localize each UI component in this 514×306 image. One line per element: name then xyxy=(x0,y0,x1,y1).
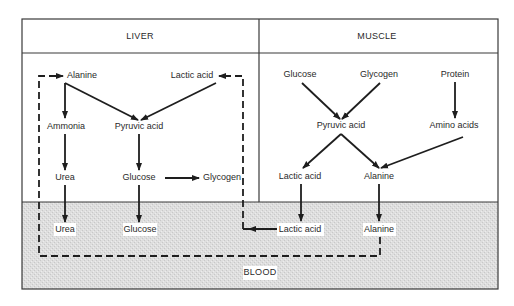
arrow-lactate-to-pyruvate-liver xyxy=(141,83,216,120)
muscle-lactic-acid: Lactic acid xyxy=(279,171,322,181)
blood-glucose: Glucose xyxy=(123,224,156,234)
blood-urea: Urea xyxy=(55,224,75,234)
arrow-pyruvate-to-lactate-muscle xyxy=(303,134,341,168)
muscle-glycogen: Glycogen xyxy=(360,69,398,79)
liver-header: LIVER xyxy=(126,31,154,41)
muscle-protein: Protein xyxy=(441,69,470,79)
liver-ammonia: Ammonia xyxy=(47,121,85,131)
liver-alanine: Alanine xyxy=(67,70,97,80)
arrow-glucose-to-pyruvate-muscle xyxy=(302,83,340,119)
liver-glucose: Glucose xyxy=(122,172,155,182)
blood-alanine: Alanine xyxy=(364,224,394,234)
glucose-alanine-cycle-diagram: LIVER MUSCLE Alanine Lactic acid Ammonia… xyxy=(0,0,514,306)
muscle-alanine: Alanine xyxy=(364,171,394,181)
liver-glycogen: Glycogen xyxy=(203,172,241,182)
blood-header: BLOOD xyxy=(243,267,276,277)
muscle-pyruvic-acid: Pyruvic acid xyxy=(317,120,366,130)
liver-urea: Urea xyxy=(55,172,75,182)
muscle-glucose: Glucose xyxy=(283,69,316,79)
arrow-glycogen-to-pyruvate-muscle xyxy=(342,83,380,119)
arrow-amino-acids-to-alanine xyxy=(381,137,463,168)
liver-lactic-acid: Lactic acid xyxy=(171,70,214,80)
arrow-pyruvate-to-alanine-muscle xyxy=(341,134,379,168)
liver-pyruvic-acid: Pyruvic acid xyxy=(115,121,164,131)
muscle-header: MUSCLE xyxy=(357,31,396,41)
muscle-amino-acids: Amino acids xyxy=(429,120,479,130)
blood-lactic-acid: Lactic acid xyxy=(279,224,322,234)
arrow-alanine-to-pyruvate-liver xyxy=(65,83,138,120)
